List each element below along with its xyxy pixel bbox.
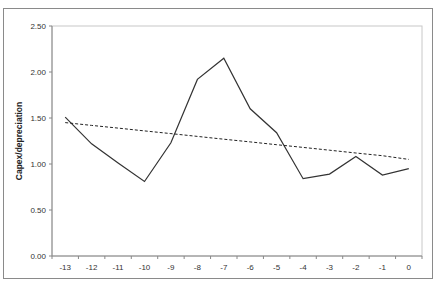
y-tick-label: 0.50 [30,206,46,215]
line-chart: 0.000.501.001.502.002.50 -13-12-11-10-9-… [0,0,440,281]
x-tick-label: -10 [139,263,151,272]
x-tick-label: -6 [247,263,255,272]
y-tick-label: 1.50 [30,114,46,123]
x-tick-label: 0 [407,263,412,272]
series-lines [65,58,409,181]
y-tick-label: 1.00 [30,160,46,169]
x-tick-label: -4 [300,263,308,272]
x-tick-label: -5 [273,263,281,272]
trend-line [65,123,409,160]
x-tick-label: -7 [220,263,228,272]
x-tick-label: -12 [86,263,98,272]
x-tick-label: -1 [379,263,387,272]
y-axis-title: Capex/depreciation [14,102,24,180]
x-tick-label: -8 [194,263,202,272]
y-tick-label: 2.50 [30,22,46,31]
x-tick-label: -3 [326,263,334,272]
x-tick-label: -9 [167,263,175,272]
data-line [65,58,409,181]
y-axis: 0.000.501.001.502.002.50 [30,22,52,261]
y-tick-label: 2.00 [30,68,46,77]
x-tick-label: -2 [352,263,360,272]
y-tick-label: 0.00 [30,252,46,261]
x-axis: -13-12-11-10-9-8-7-6-5-4-3-2-10 [52,256,422,272]
x-tick-label: -13 [59,263,71,272]
x-tick-label: -11 [113,263,125,272]
